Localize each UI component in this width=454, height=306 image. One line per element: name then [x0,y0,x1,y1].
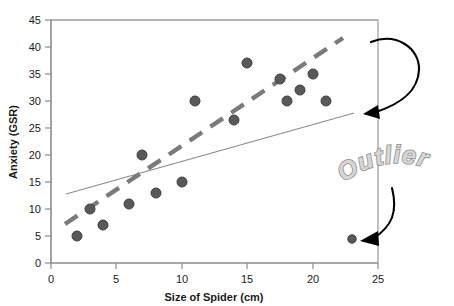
y-tick-label: 20 [29,149,41,161]
y-tick-label: 25 [29,122,41,134]
y-axis-title: Anxiety (GSR) [7,105,19,179]
data-point [98,220,108,230]
data-point [308,69,318,79]
data-point [275,74,285,84]
data-point [295,85,305,95]
scatter-plot-figure: 0 5 10 15 20 25 30 35 40 45 0 5 10 15 20… [0,0,454,306]
data-point [124,199,134,209]
data-point [321,96,331,106]
data-point [190,96,200,106]
x-tick-label: 25 [372,273,384,285]
x-tick-label: 20 [307,273,319,285]
x-tick-label: 15 [241,273,253,285]
y-tick-label: 10 [29,203,41,215]
y-tick-label: 30 [29,95,41,107]
y-tick-label: 35 [29,68,41,80]
data-point [85,204,95,214]
y-tick-label: 5 [35,230,41,242]
outlier-data-point [348,235,356,243]
data-point [137,150,147,160]
data-point [72,231,82,241]
x-tick-label: 10 [176,273,188,285]
x-axis-title: Size of Spider (cm) [164,291,263,303]
data-point [177,177,187,187]
data-point [282,96,292,106]
x-tick-label: 0 [48,273,54,285]
x-tick-label: 5 [113,273,119,285]
data-point [151,188,161,198]
data-point [229,115,239,125]
y-tick-label: 0 [35,257,41,269]
y-tick-label: 45 [29,14,41,26]
y-tick-label: 15 [29,176,41,188]
data-point [242,58,252,68]
y-tick-label: 40 [29,41,41,53]
